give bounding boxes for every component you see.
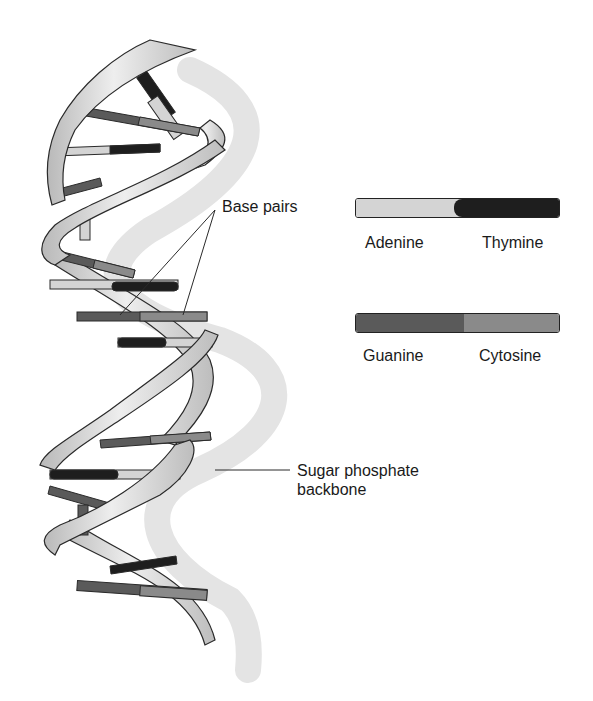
cytosine-swatch	[464, 314, 559, 332]
base-pair-gc-1	[86, 108, 200, 136]
guanine-swatch	[356, 314, 464, 332]
base-pair-gc-4	[77, 312, 207, 321]
base-pair-at-3	[50, 280, 178, 291]
thymine-label: Thymine	[482, 233, 543, 252]
backbone-label-line1: Sugar phosphate	[297, 461, 419, 480]
base-pairs-label: Base pairs	[222, 197, 298, 216]
legend-bar-guanine-cytosine	[355, 313, 560, 333]
base-pair-at-2	[55, 144, 160, 156]
base-pair-gc-5	[100, 432, 211, 448]
thymine-swatch	[454, 199, 559, 217]
cytosine-label: Cytosine	[479, 346, 541, 365]
adenine-label: Adenine	[365, 233, 424, 252]
adenine-swatch	[356, 199, 461, 217]
backbone-label-line2: backbone	[297, 480, 366, 499]
guanine-label: Guanine	[363, 346, 424, 365]
legend-bar-adenine-thymine	[355, 198, 560, 218]
